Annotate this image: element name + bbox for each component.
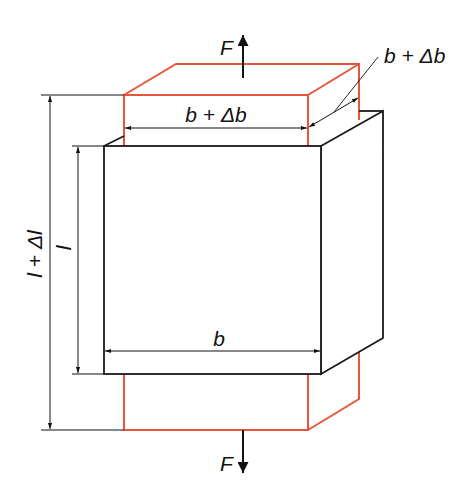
label-width-deformed-depth: b + Δb xyxy=(384,44,446,67)
label-force-top: F xyxy=(220,36,234,59)
label-length-deformed: l + Δl xyxy=(23,229,46,278)
label-force-bottom: F xyxy=(220,452,234,475)
label-width: b xyxy=(213,327,225,350)
dimension-width-deformed-depth xyxy=(309,98,358,127)
label-width-deformed-front: b + Δb xyxy=(185,103,247,126)
elongation-diagram: F F b + Δb b + Δb b l l + Δl xyxy=(0,0,468,492)
label-length: l xyxy=(52,244,75,250)
original-block xyxy=(104,111,383,374)
